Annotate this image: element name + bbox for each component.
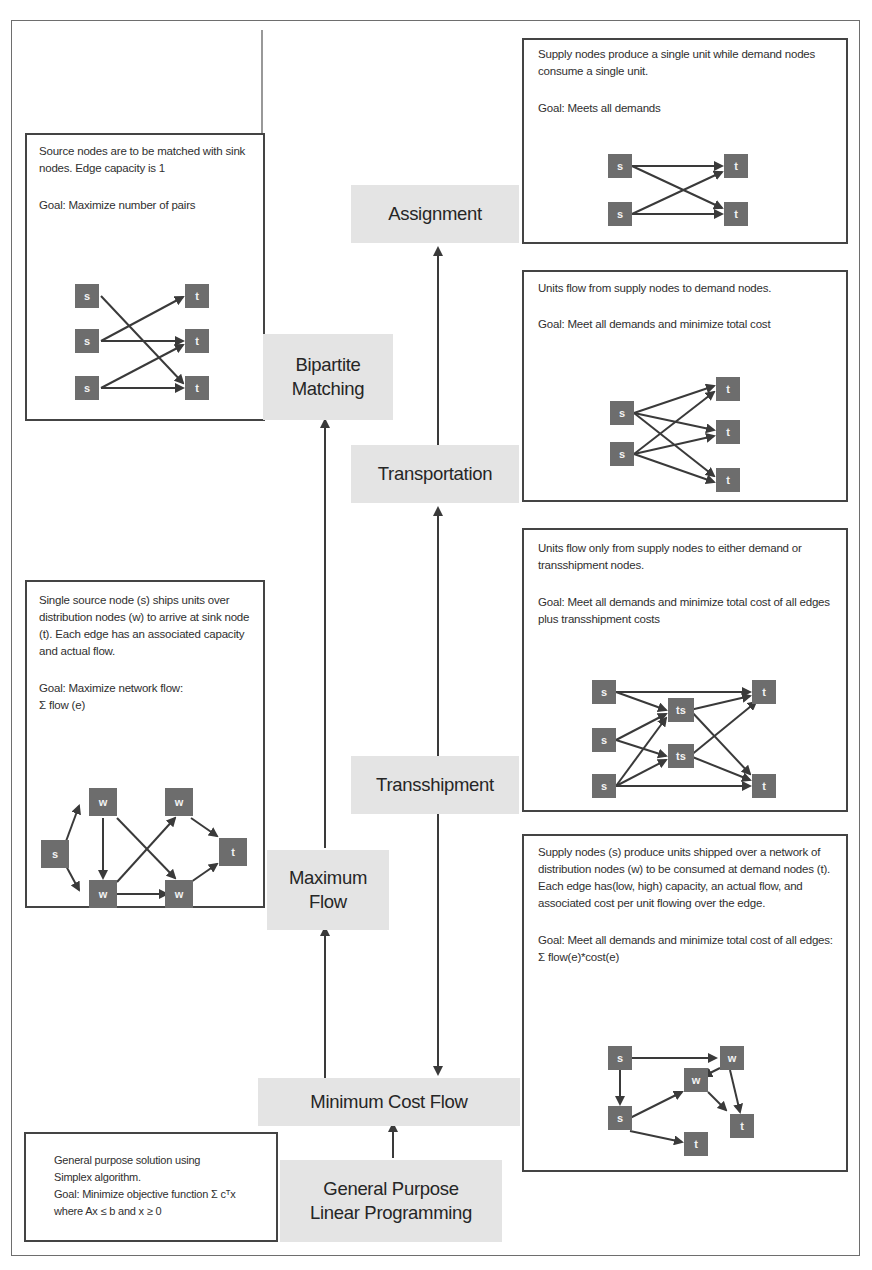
lp-description-line2: Simplex algorithm. [54,1169,276,1186]
max-flow-label-line1: Maximum [289,866,367,890]
sink-node: t [219,838,247,866]
sink-node: t [185,329,209,353]
supply-node: s [608,1046,632,1070]
lp-description-box: General purpose solution using Simplex a… [24,1132,278,1242]
transshipment-node: ts [668,744,694,768]
source-node: s [41,840,69,868]
demand-node: t [752,774,776,798]
demand-node: t [724,154,748,178]
demand-node: t [684,1132,708,1156]
distribution-node: w [684,1068,708,1092]
demand-node: t [716,468,740,492]
lp-label-line1: General Purpose [323,1177,458,1201]
distribution-node: w [89,788,117,816]
supply-node: s [592,680,616,704]
sink-node: t [185,376,209,400]
bipartite-matching-label: Bipartite Matching [263,334,393,420]
distribution-node: w [89,880,117,908]
bipartite-label-line1: Bipartite [295,353,360,377]
transportation-label: Transportation [351,445,519,503]
source-node: s [75,329,99,353]
min-cost-flow-description-box: Supply nodes (s) produce units shipped o… [522,834,848,1172]
transshipment-description-box: Units flow only from supply nodes to eit… [522,528,848,812]
transportation-graph-edges [524,272,850,504]
distribution-node: w [165,788,193,816]
transshipment-label: Transshipment [351,756,519,814]
max-flow-description-box: Single source node (s) ships units over … [25,580,265,908]
max-flow-label-line2: Flow [309,890,347,914]
bipartite-label-line2: Matching [292,377,365,401]
distribution-node: w [165,880,193,908]
linear-programming-label: General Purpose Linear Programming [280,1160,502,1242]
demand-node: t [730,1114,754,1138]
bipartite-graph-edges [27,135,267,423]
lp-goal-line2: where Ax ≤ b and x ≥ 0 [54,1203,276,1220]
supply-node: s [610,401,634,425]
supply-node: s [608,154,632,178]
supply-node: s [608,202,632,226]
lp-description-line1: General purpose solution using [54,1152,276,1169]
sink-node: t [185,284,209,308]
bipartite-description-box: Source nodes are to be matched with sink… [25,133,265,421]
transshipment-graph-edges [524,530,850,814]
maximum-flow-label: Maximum Flow [267,850,389,930]
lp-label-line2: Linear Programming [310,1201,472,1225]
minimum-cost-flow-label: Minimum Cost Flow [258,1078,520,1126]
demand-node: t [752,680,776,704]
assignment-graph-edges [524,40,850,246]
supply-node: s [610,442,634,466]
transportation-description-box: Units flow from supply nodes to demand n… [522,270,848,502]
supply-node: s [592,774,616,798]
source-node: s [75,376,99,400]
source-node: s [75,284,99,308]
demand-node: t [716,377,740,401]
demand-node: t [716,420,740,444]
min-cost-flow-graph-edges [524,836,850,1174]
demand-node: t [724,202,748,226]
supply-node: s [608,1106,632,1130]
transshipment-node: ts [668,698,694,722]
distribution-node: w [720,1046,744,1070]
assignment-label: Assignment [351,185,519,243]
lp-goal-line1: Goal: Minimize objective function Σ cᵀx [54,1186,276,1203]
assignment-description-box: Supply nodes produce a single unit while… [522,38,848,244]
supply-node: s [592,728,616,752]
